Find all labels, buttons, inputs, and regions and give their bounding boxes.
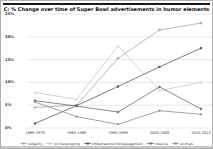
data-point [117,45,119,47]
bottom-edge-strip [1,146,212,148]
data-point [34,101,36,103]
data-point [158,110,160,112]
series-line-vulgarity [35,23,201,107]
data-point [117,85,119,87]
legend-label: Violence [155,142,169,146]
x-axis-tick-label: 1990-1999 [103,131,133,135]
legend-label: All Stereotyping [54,142,79,146]
y-axis-tick-label: 20% [5,35,25,39]
y-axis-tick-label: 15% [5,58,25,62]
x-axis-tick-label: 1969-1979 [20,131,50,135]
data-point [199,22,202,25]
legend-label: Embarrassment/Disparagement [92,142,143,146]
data-point [34,122,36,124]
data-point [200,47,202,49]
legend-label: Animals [180,142,193,146]
x-axis-tick-label: 1980-1989 [62,131,92,135]
y-axis-tick-label: 10% [5,80,25,84]
series-line-violence [35,87,201,112]
x-axis-tick-label: 2000-2009 [145,131,175,135]
legend-label: Vulgarity [28,142,42,146]
data-point [200,113,202,115]
y-axis-tick-label: 0% [5,126,25,130]
x-axis-tick-label: 2010-2012 [186,131,213,135]
data-point [75,116,77,118]
chart-panel: C: % Change over time of Super Bowl adve… [0,0,213,149]
y-axis-tick-label: 25% [5,12,25,16]
series-line-all-stereotyping [35,46,201,99]
data-point [117,123,119,125]
y-axis-tick-label: 5% [5,103,25,107]
data-point [33,106,36,109]
data-point [199,107,202,110]
data-point [158,66,160,68]
plot-area [1,1,213,149]
